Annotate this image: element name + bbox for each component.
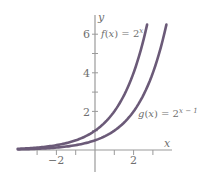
y-axis-label: y <box>98 12 104 23</box>
y-tick-label-6: 6 <box>83 29 90 40</box>
f-arg: x <box>109 28 115 39</box>
legend-f-label: f(x) = 2x <box>101 28 143 39</box>
curve-f <box>18 25 147 149</box>
x-tick-label-neg2: −2 <box>48 155 64 166</box>
g-arg: x <box>148 108 154 119</box>
y-tick-label-2: 2 <box>83 107 90 118</box>
g-exp: x − 1 <box>179 107 198 115</box>
x-tick-label-2: 2 <box>130 155 137 166</box>
legend-g-label: g(x) = 2x − 1 <box>138 108 198 119</box>
f-func-name: f <box>101 28 105 39</box>
f-exp: x <box>139 27 143 35</box>
g-func-name: g <box>138 108 144 119</box>
y-tick-label-4: 4 <box>83 68 90 79</box>
x-axis-label: x <box>164 138 170 149</box>
chart-plot-area <box>0 0 201 178</box>
